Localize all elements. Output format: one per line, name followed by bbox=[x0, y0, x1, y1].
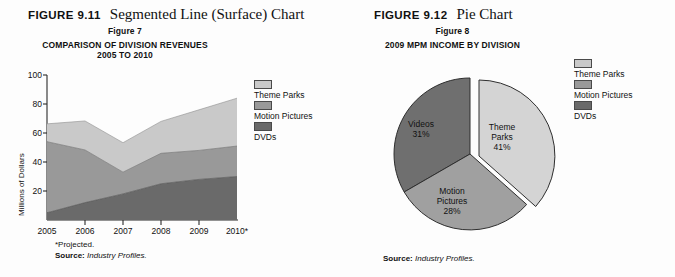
area-chart-footnote: *Projected. bbox=[55, 240, 94, 250]
area-chart-source-label: Source: bbox=[55, 251, 85, 260]
legend-label-dvds: DVDs bbox=[254, 132, 313, 142]
pie-label-videos: Videos 31% bbox=[386, 119, 456, 139]
x-tick-2008: 2008 bbox=[144, 227, 178, 236]
x-tick-2005: 2005 bbox=[30, 227, 64, 236]
area-chart-source-value: Industry Profiles. bbox=[87, 251, 147, 260]
x-tick-2006: 2006 bbox=[68, 227, 102, 236]
x-tick-2010: 2010* bbox=[219, 227, 255, 236]
pie-label-theme-parks-line2: Parks bbox=[491, 132, 513, 142]
legend-swatch-theme-parks-icon bbox=[254, 80, 272, 89]
pie-label-motion-pictures-line2: Pictures bbox=[437, 196, 468, 206]
figure-9-12-caption: FIGURE 9.12Pie Chart bbox=[374, 5, 513, 23]
pie-label-videos-line1: Videos bbox=[408, 119, 434, 129]
pie-label-motion-pictures-value: 28% bbox=[443, 206, 460, 216]
pie-legend-swatch-dvds-icon bbox=[574, 101, 592, 110]
x-tick-2009: 2009 bbox=[182, 227, 216, 236]
figure-9-12-label: FIGURE 9.12 bbox=[374, 9, 447, 21]
pie-label-motion-pictures: Motion Pictures 28% bbox=[414, 186, 490, 216]
pie-chart-panel: Figure 8 2009 MPM INCOME BY DIVISION The… bbox=[340, 26, 675, 277]
pie-legend-item-dvds: DVDs bbox=[574, 101, 633, 121]
pie-chart-legend: Theme Parks Motion Pictures DVDs bbox=[574, 59, 633, 122]
pie-chart-source: Source: Industry Profiles. bbox=[383, 254, 475, 264]
pie-label-theme-parks: Theme Parks 41% bbox=[462, 122, 542, 152]
pie-legend-swatch-theme-parks-icon bbox=[574, 59, 592, 68]
pie-legend-swatch-motion-pictures-icon bbox=[574, 80, 592, 89]
textbook-figure-page: FIGURE 9.11Segmented Line (Surface) Char… bbox=[0, 0, 675, 277]
figure-9-11-title: Segmented Line (Surface) Chart bbox=[110, 6, 305, 22]
pie-legend-item-theme-parks: Theme Parks bbox=[574, 59, 633, 79]
legend-swatch-motion-pictures-icon bbox=[254, 101, 272, 110]
pie-label-motion-pictures-line1: Motion bbox=[439, 186, 465, 196]
area-chart-legend: Theme Parks Motion Pictures DVDs bbox=[254, 80, 313, 143]
legend-label-motion-pictures: Motion Pictures bbox=[254, 111, 313, 121]
legend-item-motion-pictures: Motion Pictures bbox=[254, 101, 313, 121]
pie-legend-label-dvds: DVDs bbox=[574, 111, 633, 121]
pie-legend-label-theme-parks: Theme Parks bbox=[574, 69, 633, 79]
figure-9-11-label: FIGURE 9.11 bbox=[28, 9, 101, 21]
pie-label-theme-parks-line1: Theme bbox=[489, 122, 515, 132]
figure-9-11-caption: FIGURE 9.11Segmented Line (Surface) Char… bbox=[28, 5, 304, 23]
figure-9-12-title: Pie Chart bbox=[456, 6, 512, 22]
pie-label-theme-parks-value: 41% bbox=[493, 142, 510, 152]
pie-chart-source-value: Industry Profiles. bbox=[415, 254, 475, 263]
legend-item-dvds: DVDs bbox=[254, 122, 313, 142]
area-chart-source: Source: Industry Profiles. bbox=[55, 251, 147, 261]
pie-legend-label-motion-pictures: Motion Pictures bbox=[574, 90, 633, 100]
area-chart-panel: Figure 7 COMPARISON OF DIVISION REVENUES… bbox=[0, 26, 340, 277]
x-tick-2007: 2007 bbox=[106, 227, 140, 236]
pie-legend-item-motion-pictures: Motion Pictures bbox=[574, 80, 633, 100]
legend-item-theme-parks: Theme Parks bbox=[254, 80, 313, 100]
pie-chart-source-label: Source: bbox=[383, 254, 413, 263]
legend-swatch-dvds-icon bbox=[254, 122, 272, 131]
pie-label-videos-value: 31% bbox=[412, 129, 429, 139]
legend-label-theme-parks: Theme Parks bbox=[254, 90, 313, 100]
